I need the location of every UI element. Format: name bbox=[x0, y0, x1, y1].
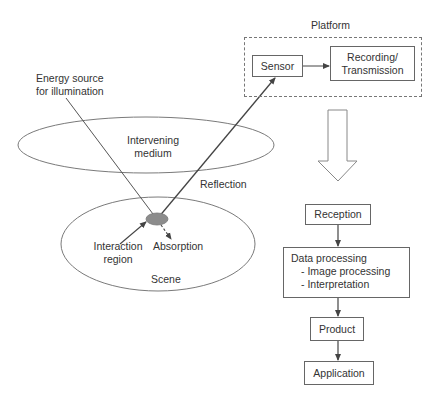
data-processing-box: Data processing - Image processing - Int… bbox=[283, 247, 410, 298]
platform-label: Platform bbox=[311, 19, 350, 32]
intervening-line2: medium bbox=[118, 147, 188, 160]
interaction-line1: Interaction bbox=[87, 240, 149, 253]
data-processing-item-image: - Image processing bbox=[291, 265, 390, 278]
data-processing-title: Data processing bbox=[291, 252, 367, 265]
recording-line2: Transmission bbox=[341, 64, 403, 77]
recording-line1: Recording/ bbox=[347, 51, 398, 64]
scene-label: Scene bbox=[151, 273, 181, 286]
sensor-box: Sensor bbox=[252, 55, 303, 77]
interaction-region-blob bbox=[146, 213, 168, 225]
reception-box: Reception bbox=[305, 204, 371, 225]
intervening-line1: Intervening bbox=[118, 134, 188, 147]
application-label: Application bbox=[313, 367, 364, 380]
energy-source-line1: Energy source bbox=[36, 72, 104, 85]
product-label: Product bbox=[319, 323, 355, 336]
sensor-label: Sensor bbox=[261, 60, 294, 73]
absorption-arrow bbox=[161, 225, 171, 239]
product-box: Product bbox=[310, 317, 364, 341]
energy-source-label: Energy source for illumination bbox=[36, 72, 104, 98]
recording-transmission-box: Recording/ Transmission bbox=[330, 46, 415, 81]
application-box: Application bbox=[304, 361, 374, 385]
intervening-medium-label: Intervening medium bbox=[118, 134, 188, 160]
reflection-label: Reflection bbox=[200, 178, 247, 191]
absorption-label: Absorption bbox=[153, 240, 203, 253]
interaction-line2: region bbox=[87, 253, 149, 266]
big-down-arrow-icon bbox=[318, 110, 357, 181]
interaction-region-label: Interaction region bbox=[87, 240, 149, 266]
energy-source-line2: for illumination bbox=[36, 85, 104, 98]
data-processing-item-interpretation: - Interpretation bbox=[291, 278, 369, 291]
reception-label: Reception bbox=[314, 208, 361, 221]
